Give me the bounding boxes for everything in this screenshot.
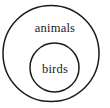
- set-label-birds: birds: [42, 63, 68, 76]
- euler-diagram: animals birds: [0, 0, 110, 108]
- set-label-animals: animals: [35, 22, 75, 35]
- venn-diagram-canvas: [0, 0, 110, 108]
